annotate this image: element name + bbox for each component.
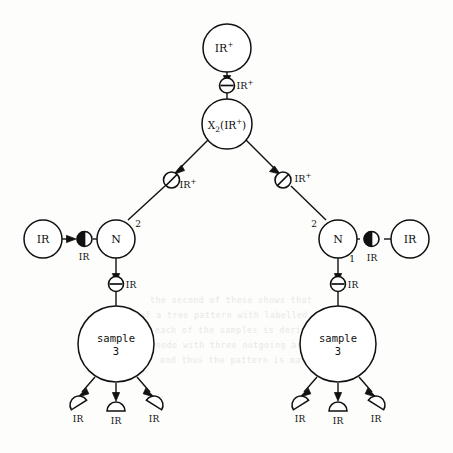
node-right-operand[interactable]: IR	[391, 220, 429, 258]
node-left-sample-line1: sample	[97, 332, 135, 344]
connector-right-minus[interactable]	[331, 277, 346, 292]
node-root-source[interactable]: IR+	[203, 24, 251, 72]
node-left-n-label: N	[111, 233, 121, 246]
edge-left-sample-leaf-2	[137, 377, 150, 392]
node-left-sample-line2: 3	[113, 345, 119, 357]
node-left-n[interactable]: N	[97, 220, 135, 258]
node-right-n[interactable]: N	[319, 220, 357, 258]
diagram-svg: IR+ IR+ X2(IR+) IR+	[0, 0, 453, 453]
connector-top-minus-sup: +	[248, 79, 254, 87]
leaf-left-2-label: IR	[149, 414, 160, 424]
diagram-canvas: the second of these shows that of a tree…	[0, 0, 453, 453]
connector-left-split[interactable]	[77, 232, 92, 247]
edge-right-sample-leaf-2	[359, 377, 372, 392]
node-center[interactable]: X2(IR+)	[202, 99, 252, 149]
edge-right-slash-to-n	[291, 186, 326, 220]
connector-right-split[interactable]	[364, 232, 379, 247]
connector-left-split-label: IR	[79, 252, 90, 262]
leaf-right-1[interactable]	[329, 402, 347, 411]
leaf-right-1-label: IR	[333, 416, 344, 426]
connector-right-split-label: IR	[367, 253, 378, 263]
node-left-operand[interactable]: IR	[24, 220, 62, 258]
node-left-sample[interactable]: sample 3	[78, 306, 154, 382]
leaf-left-1-label: IR	[111, 416, 122, 426]
connector-left-slash[interactable]	[164, 172, 180, 188]
connector-right-slash-sup: +	[306, 172, 312, 180]
node-left-operand-label: IR	[37, 233, 50, 246]
leaf-right-0-label: IR	[295, 414, 306, 424]
port-label-right-n-lower: 1	[349, 254, 355, 264]
edge-center-to-right-slash	[243, 137, 275, 169]
node-right-n-label: N	[333, 233, 343, 246]
arrowhead-left-sample-leaf-1	[112, 393, 119, 402]
connector-top-minus-label-group: IR+	[237, 79, 254, 91]
arrowhead-right-sample-leaf-1	[334, 393, 341, 402]
node-right-sample-line2: 3	[335, 345, 341, 357]
connector-left-minus-label: IR	[126, 280, 137, 290]
connector-right-slash[interactable]	[275, 172, 291, 188]
connector-right-minus-label: IR	[348, 280, 359, 290]
connector-left-minus[interactable]	[109, 277, 124, 292]
leaf-left-0-label: IR	[73, 414, 84, 424]
arrowhead-left-operand-to-split	[67, 235, 77, 242]
connector-left-slash-label-group: IR+	[180, 178, 197, 190]
edge-left-sample-leaf-0	[82, 377, 95, 392]
leaf-right-2-label: IR	[371, 414, 382, 424]
edge-right-sample-leaf-0	[304, 377, 317, 392]
connector-top-minus[interactable]	[220, 78, 235, 93]
node-root-source-sup: +	[227, 41, 233, 49]
node-right-operand-label: IR	[404, 233, 417, 246]
port-label-right-n-upper: 2	[311, 219, 317, 229]
node-root-source-label: IR	[215, 42, 228, 55]
leaf-left-1[interactable]	[107, 402, 125, 411]
port-label-left-n: 2	[135, 219, 141, 229]
connector-right-slash-label-group: IR+	[295, 172, 312, 184]
node-right-sample-line1: sample	[319, 332, 357, 344]
edge-center-to-left-slash	[178, 137, 211, 170]
node-right-sample[interactable]: sample 3	[300, 306, 376, 382]
connector-left-slash-sup: +	[191, 178, 197, 186]
node-center-paren-close: )	[242, 119, 246, 131]
edge-left-slash-to-n	[128, 186, 165, 220]
